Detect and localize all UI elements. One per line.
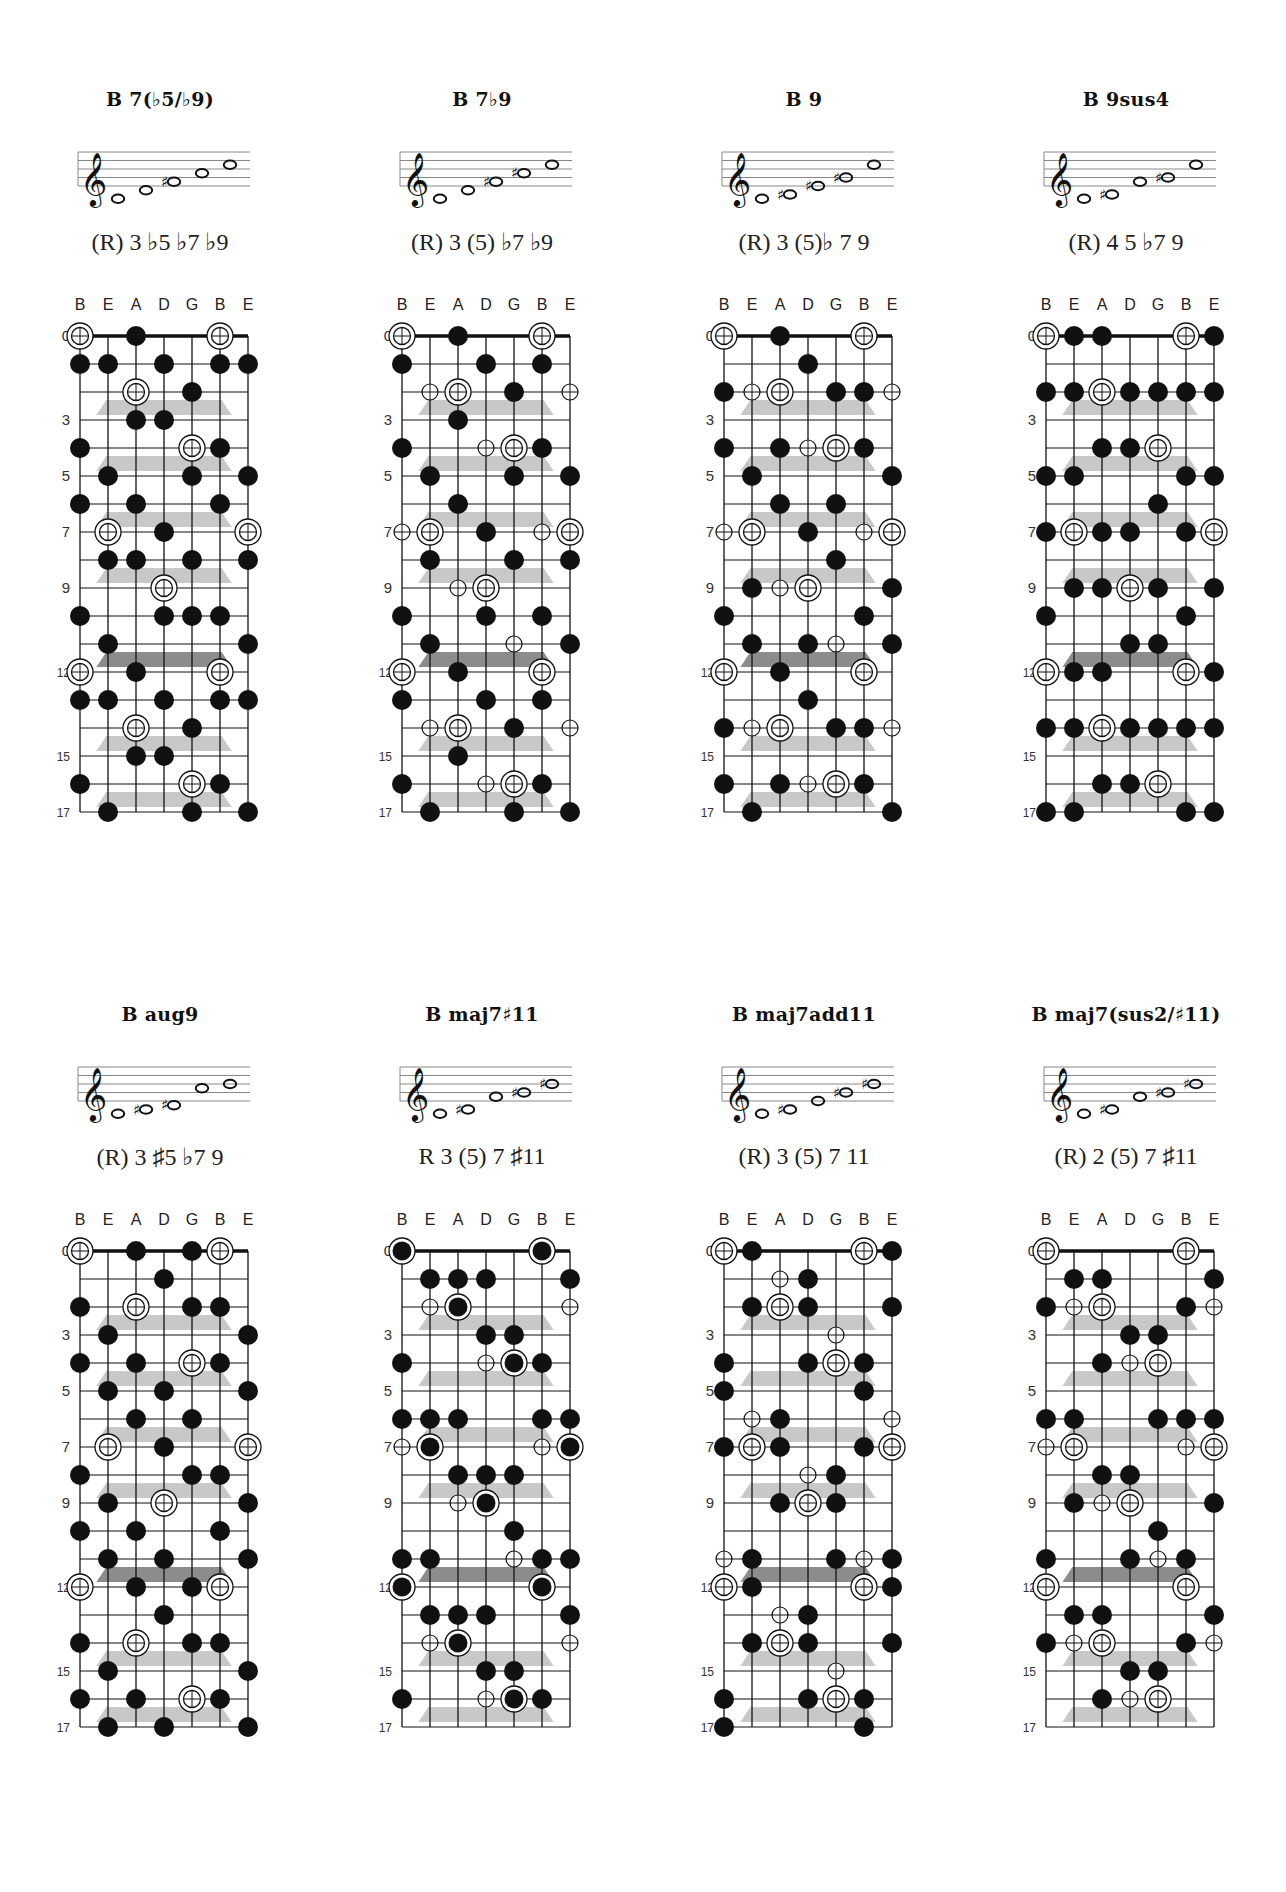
chord-tone-dot: [714, 1353, 734, 1373]
chord-tone-dot: [532, 354, 552, 374]
treble-clef-icon: 𝄞: [402, 1067, 429, 1123]
fret-number: 17: [1023, 806, 1037, 820]
chord-tone-dot: [392, 690, 412, 710]
chord-tone-dot: [70, 690, 90, 710]
chord-tone-dot: [770, 1437, 790, 1457]
chord-tone-dot: [238, 634, 258, 654]
fret-number: 9: [1028, 579, 1036, 596]
chord-tone-dot: [714, 774, 734, 794]
chord-tone-dot: [882, 1549, 902, 1569]
string-label: B: [537, 1211, 548, 1228]
chord-tone-dot: [504, 550, 524, 570]
string-label: D: [802, 1211, 814, 1228]
string-label: A: [1097, 1211, 1108, 1228]
chord-tone-dot: [98, 1381, 118, 1401]
chord-tone-dot: [1064, 1409, 1084, 1429]
fret-number: 7: [384, 523, 392, 540]
chord-tone-dot: [1204, 1605, 1224, 1625]
interval-formula: (R) 3 (5)♭ 7 9: [644, 228, 964, 256]
interval-formula: (R) 3 (5) ♭7 ♭9: [322, 228, 642, 256]
chord-tone-dot: [448, 1605, 468, 1625]
whole-note-icon: [168, 1101, 180, 1109]
fret-number: 5: [1028, 467, 1036, 484]
root-filled-dot: [393, 1242, 412, 1261]
chord-tone-dot: [532, 1549, 552, 1569]
whole-note-icon: [140, 186, 152, 194]
chord-tone-dot: [126, 410, 146, 430]
fret-number: 5: [62, 467, 70, 484]
whole-note-icon: [196, 1084, 208, 1092]
chord-tone-dot: [1036, 802, 1056, 822]
fretboard-diagram: BEADGBE03579121517: [322, 280, 642, 920]
chord-tone-dot: [1036, 1297, 1056, 1317]
chord-tone-dot: [1204, 578, 1224, 598]
fret-number: 3: [1028, 1326, 1036, 1343]
chord-tone-dot: [1148, 1409, 1168, 1429]
string-label: E: [747, 296, 758, 313]
chord-tone-dot: [1120, 634, 1140, 654]
string-label: B: [75, 296, 86, 313]
chord-tone-dot: [448, 1465, 468, 1485]
chord-tone-dot: [798, 1689, 818, 1709]
treble-clef-icon: 𝄞: [80, 152, 107, 208]
fret-number: 17: [1023, 1721, 1037, 1735]
string-label: D: [158, 1211, 170, 1228]
chord-tone-dot: [126, 662, 146, 682]
fretboard-diagram: BEADGBE03579121517: [966, 280, 1286, 920]
chord-tone-dot: [476, 1269, 496, 1289]
whole-note-icon: [168, 178, 180, 186]
string-label: E: [1209, 1211, 1220, 1228]
chord-tone-dot: [770, 662, 790, 682]
fretboard-diagram: BEADGBE03579121517: [966, 1195, 1286, 1835]
chord-tone-dot: [126, 1689, 146, 1709]
chord-tone-dot: [1176, 1549, 1196, 1569]
string-label: E: [565, 296, 576, 313]
string-label: E: [1069, 296, 1080, 313]
chord-tone-dot: [826, 550, 846, 570]
treble-clef-icon: 𝄞: [724, 152, 751, 208]
chord-tone-dot: [1204, 326, 1224, 346]
whole-note-icon: [434, 195, 446, 203]
chord-tone-dot: [70, 494, 90, 514]
fret-number: 5: [384, 1382, 392, 1399]
string-label: B: [859, 296, 870, 313]
treble-clef-icon: 𝄞: [1046, 1067, 1073, 1123]
staff-notation: 𝄞♯♯♯: [966, 1047, 1286, 1127]
root-filled-dot: [533, 1242, 552, 1261]
treble-clef-icon: 𝄞: [80, 1067, 107, 1123]
chord-tone-dot: [238, 466, 258, 486]
chord-tone-dot: [448, 410, 468, 430]
chord-tone-dot: [126, 1353, 146, 1373]
string-label: E: [425, 296, 436, 313]
chord-tone-dot: [154, 410, 174, 430]
string-label: G: [508, 1211, 520, 1228]
chord-tone-dot: [182, 718, 202, 738]
chord-tone-dot: [392, 1689, 412, 1709]
chord-tone-dot: [210, 354, 230, 374]
chord-tone-dot: [770, 494, 790, 514]
whole-note-icon: [784, 1105, 796, 1113]
chord-tone-dot: [420, 634, 440, 654]
chord-tone-dot: [742, 578, 762, 598]
chord-tone-dot: [798, 354, 818, 374]
fret-number: 7: [62, 1438, 70, 1455]
chord-tone-dot: [504, 1661, 524, 1681]
chord-tone-dot: [70, 1353, 90, 1373]
string-label: A: [775, 296, 786, 313]
whole-note-icon: [224, 161, 236, 169]
string-label: B: [719, 296, 730, 313]
chord-tone-dot: [798, 1353, 818, 1373]
chord-tone-dot: [70, 606, 90, 626]
chord-tone-dot: [560, 550, 580, 570]
string-label: G: [830, 1211, 842, 1228]
string-label: A: [1097, 296, 1108, 313]
treble-clef-icon: 𝄞: [1046, 152, 1073, 208]
string-label: B: [1181, 296, 1192, 313]
chord-tone-dot: [1064, 1605, 1084, 1625]
chord-tone-dot: [1204, 382, 1224, 402]
chord-tone-dot: [1120, 774, 1140, 794]
whole-note-icon: [868, 161, 880, 169]
chord-tone-dot: [182, 1577, 202, 1597]
chord-tone-dot: [532, 438, 552, 458]
string-label: E: [103, 1211, 114, 1228]
